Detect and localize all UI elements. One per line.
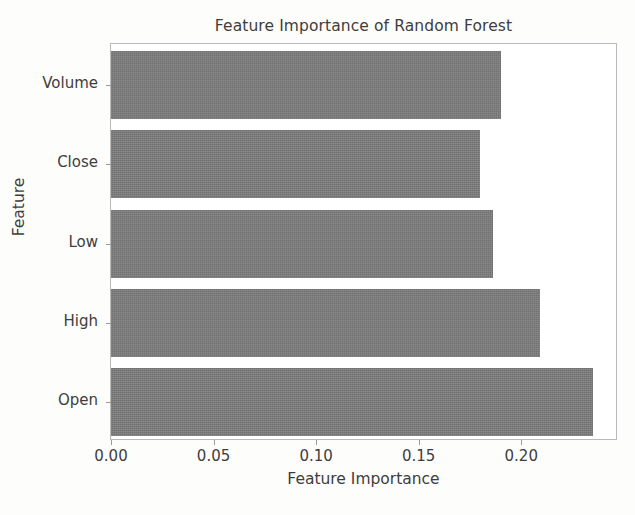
y-tick-mark-low <box>106 244 111 245</box>
y-tick-label-volume: Volume <box>0 74 98 92</box>
y-tick-label-low: Low <box>0 233 98 251</box>
bar-high <box>111 289 540 357</box>
chart-title: Feature Importance of Random Forest <box>110 17 617 35</box>
bar-open <box>111 368 593 436</box>
plot-area <box>110 43 617 440</box>
bar-low <box>111 210 493 278</box>
bar-fill <box>111 289 540 357</box>
x-axis-label: Feature Importance <box>110 470 617 488</box>
y-tick-label-high: High <box>0 312 98 330</box>
bar-fill <box>111 368 593 436</box>
x-tick-mark-3 <box>419 440 420 445</box>
y-tick-mark-volume <box>106 85 111 86</box>
chart-figure: Feature Importance of Random Forest Feat… <box>0 0 635 515</box>
x-tick-label-0: 0.00 <box>94 447 127 465</box>
x-tick-label-2: 0.10 <box>299 447 332 465</box>
y-tick-mark-high <box>106 323 111 324</box>
x-tick-label-3: 0.15 <box>402 447 435 465</box>
y-tick-mark-close <box>106 164 111 165</box>
x-tick-mark-0 <box>111 440 112 445</box>
bar-fill <box>111 210 493 278</box>
bar-volume <box>111 51 501 119</box>
x-tick-mark-1 <box>214 440 215 445</box>
x-tick-mark-2 <box>316 440 317 445</box>
x-tick-label-4: 0.20 <box>505 447 538 465</box>
bar-fill <box>111 130 480 198</box>
y-tick-label-close: Close <box>0 153 98 171</box>
x-tick-mark-4 <box>521 440 522 445</box>
bar-fill <box>111 51 501 119</box>
bar-close <box>111 130 480 198</box>
y-tick-mark-open <box>106 402 111 403</box>
x-tick-label-1: 0.05 <box>197 447 230 465</box>
y-tick-label-open: Open <box>0 391 98 409</box>
page-caption-remnant <box>0 498 635 515</box>
